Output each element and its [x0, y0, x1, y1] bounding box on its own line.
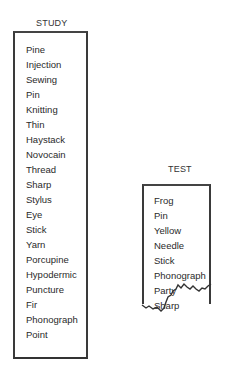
study-word: Yarn [26, 237, 78, 252]
torn-edge-icon [140, 275, 215, 320]
study-word: Sewing [26, 72, 78, 87]
test-word: Stick [154, 253, 206, 268]
study-word: Hypodermic [26, 267, 78, 282]
study-word: Phonograph [26, 312, 78, 327]
study-word: Pine [26, 42, 78, 57]
study-word: Thread [26, 162, 78, 177]
test-word: Yellow [154, 223, 206, 238]
study-word: Sharp [26, 177, 78, 192]
test-title: TEST [168, 164, 192, 174]
study-word: Point [26, 327, 78, 342]
study-word: Stylus [26, 192, 78, 207]
study-list-box: Pine Injection Sewing Pin Knitting Thin … [13, 31, 88, 359]
study-word: Puncture [26, 282, 78, 297]
study-word: Pin [26, 87, 78, 102]
study-word: Thin [26, 117, 78, 132]
test-word: Frog [154, 193, 206, 208]
study-word: Haystack [26, 132, 78, 147]
study-word: Eye [26, 207, 78, 222]
study-word: Fir [26, 297, 78, 312]
study-word: Knitting [26, 102, 78, 117]
study-word-list: Pine Injection Sewing Pin Knitting Thin … [26, 42, 78, 342]
study-title: STUDY [36, 18, 68, 28]
study-word: Stick [26, 222, 78, 237]
study-word: Novocain [26, 147, 78, 162]
test-word: Needle [154, 238, 206, 253]
test-word: Pin [154, 208, 206, 223]
study-word: Porcupine [26, 252, 78, 267]
study-word: Injection [26, 57, 78, 72]
